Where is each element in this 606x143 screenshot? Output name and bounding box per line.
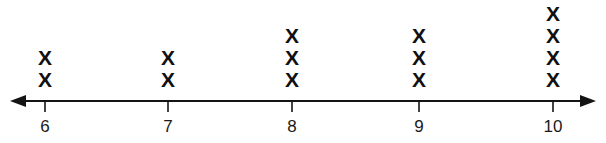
x-mark: X	[38, 47, 52, 69]
x-mark: X	[412, 47, 426, 69]
axis-arrow-left-icon	[10, 95, 26, 107]
mark-stack-6: X X	[25, 47, 65, 91]
mark-stack-10: X X X X	[533, 3, 573, 91]
x-mark: X	[285, 25, 299, 47]
axis-tick-label-8: 8	[262, 117, 322, 137]
x-mark: X	[285, 47, 299, 69]
x-mark: X	[546, 69, 560, 91]
dot-plot-chart: X X X X X X X X X X X X X X 6 7 8 9 10	[0, 0, 606, 143]
x-mark: X	[412, 25, 426, 47]
axis-tick-label-9: 9	[389, 117, 449, 137]
x-mark: X	[38, 69, 52, 91]
axis-arrow-right-icon	[580, 95, 596, 107]
x-mark: X	[546, 3, 560, 25]
mark-stack-7: X X	[148, 47, 188, 91]
x-mark: X	[546, 47, 560, 69]
mark-stack-9: X X X	[399, 25, 439, 91]
x-mark: X	[161, 69, 175, 91]
x-mark: X	[546, 25, 560, 47]
mark-stack-8: X X X	[272, 25, 312, 91]
axis-tick-label-6: 6	[15, 117, 75, 137]
x-mark: X	[412, 69, 426, 91]
axis-tick-label-7: 7	[138, 117, 198, 137]
x-mark: X	[285, 69, 299, 91]
axis-tick-label-10: 10	[523, 117, 583, 137]
x-mark: X	[161, 47, 175, 69]
